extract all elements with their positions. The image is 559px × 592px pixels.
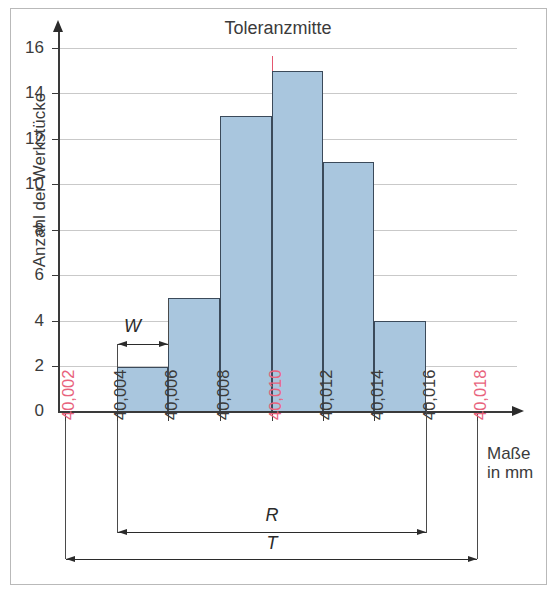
unit-line-1: Maße [487, 444, 530, 463]
t-extension-right [477, 421, 478, 559]
unit-line-2: in mm [487, 463, 533, 482]
r-extension-left [117, 421, 118, 533]
y-tick-4 [52, 321, 59, 322]
range-symbol: R [232, 505, 312, 526]
y-tick-8 [52, 230, 59, 231]
x-tick-label-40006: 40,006 [162, 342, 178, 420]
w-extension-left [117, 344, 118, 368]
y-tick-label-0: 0 [18, 401, 44, 421]
x-tick-label-40018: 40,018 [471, 342, 487, 420]
y-axis-arrow-icon [53, 20, 63, 32]
x-tick-label-40008: 40,008 [214, 342, 230, 420]
w-extension-right [168, 300, 169, 348]
y-tick-10 [52, 184, 59, 185]
x-tick-label-40014: 40,014 [368, 342, 384, 420]
chart-title: Toleranzmitte [178, 18, 378, 39]
y-tick-12 [52, 139, 59, 140]
x-tick-label-40010: 40,010 [266, 342, 282, 420]
y-tick-2 [52, 366, 59, 367]
t-dimension-line [66, 559, 477, 560]
x-tick-label-40016: 40,016 [420, 342, 436, 420]
tolerance-symbol: T [232, 533, 312, 554]
r-arrow-right-icon [417, 529, 426, 535]
x-tick-label-40002: 40,002 [59, 342, 75, 420]
w-arrow-left-icon [118, 341, 127, 347]
r-arrow-left-icon [118, 529, 127, 535]
t-extension-left [65, 421, 66, 559]
t-arrow-left-icon [66, 556, 75, 562]
x-tick-label-40004: 40,004 [111, 342, 127, 420]
y-axis-title: Anzahl der Werkstücke [30, 70, 50, 290]
y-tick-label-16: 16 [18, 38, 44, 58]
y-tick-16 [52, 48, 59, 49]
w-arrow-right-icon [159, 341, 168, 347]
y-tick-14 [52, 93, 59, 94]
bin-width-symbol: W [124, 316, 141, 337]
gridline-16 [58, 48, 517, 49]
histogram-chart: Toleranzmitte 16 14 12 10 8 6 4 2 0 Anza… [0, 0, 559, 592]
y-tick-label-4: 4 [18, 311, 44, 331]
r-extension-right [426, 403, 427, 533]
y-tick-6 [52, 275, 59, 276]
y-tick-label-2: 2 [18, 356, 44, 376]
t-arrow-right-icon [468, 556, 477, 562]
x-tick-label-40012: 40,012 [317, 342, 333, 420]
x-axis-arrow-icon [512, 406, 524, 416]
x-axis-unit-label: Maße in mm [487, 444, 533, 482]
